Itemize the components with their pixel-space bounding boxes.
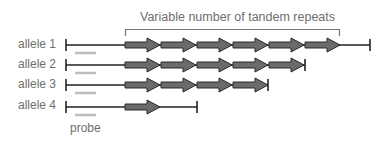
repeat-arrow-icon (269, 58, 304, 72)
repeat-arrow-icon (125, 78, 160, 92)
repeat-arrow-icon (233, 78, 268, 92)
repeat-arrow-icon (161, 58, 196, 72)
repeat-arrow-icon (125, 38, 160, 52)
repeat-arrow-icon (197, 38, 232, 52)
repeat-arrow-icon (125, 100, 160, 114)
allele-diagram (0, 0, 390, 141)
repeat-arrow-icon (305, 38, 340, 52)
repeat-arrow-icon (125, 58, 160, 72)
repeat-bracket (126, 30, 340, 37)
repeat-arrow-icon (197, 58, 232, 72)
repeat-arrow-icon (269, 38, 304, 52)
repeat-arrow-icon (161, 38, 196, 52)
repeat-arrow-icon (197, 78, 232, 92)
repeat-arrow-icon (233, 58, 268, 72)
repeat-arrow-icon (233, 38, 268, 52)
repeat-arrow-icon (161, 78, 196, 92)
